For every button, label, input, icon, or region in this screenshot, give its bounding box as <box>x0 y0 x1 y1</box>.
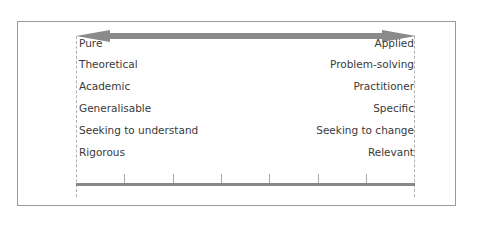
double-headed-arrow-icon <box>76 28 416 44</box>
left-label-5: Rigorous <box>79 146 125 159</box>
left-label-0: Pure <box>79 37 102 50</box>
right-label-4: Seeking to change <box>316 124 414 137</box>
right-label-0: Applied <box>375 37 414 50</box>
right-dashed-guide <box>414 36 415 197</box>
right-label-3: Specific <box>373 102 414 115</box>
left-label-1: Theoretical <box>79 58 138 71</box>
left-label-2: Academic <box>79 80 130 93</box>
right-label-5: Relevant <box>368 146 414 159</box>
scale-axis-line <box>76 183 415 186</box>
right-label-2: Practitioner <box>353 80 414 93</box>
left-label-4: Seeking to understand <box>79 124 198 137</box>
left-dashed-guide <box>76 36 77 197</box>
left-label-3: Generalisable <box>79 102 151 115</box>
right-label-1: Problem-solving <box>330 58 414 71</box>
